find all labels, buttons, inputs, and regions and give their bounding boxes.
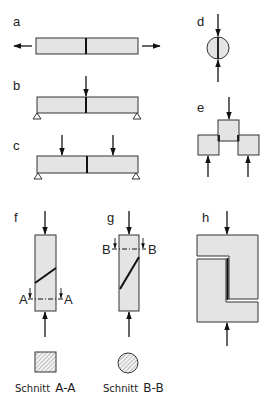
support-triangle-icon <box>133 113 141 119</box>
panel-a: a <box>13 14 160 54</box>
panel-label-b: b <box>13 78 20 93</box>
hatched-square-section <box>35 352 56 372</box>
panel-f: f A A <box>14 210 73 337</box>
caption-mark: A-A <box>55 381 76 395</box>
panel-label-e: e <box>197 100 204 115</box>
panel-label-a: a <box>13 14 21 29</box>
block-left <box>198 135 219 155</box>
scarf-specimen <box>35 235 56 311</box>
beam-specimen <box>37 97 138 113</box>
panel-label-c: c <box>13 138 20 153</box>
panel-label-d: d <box>197 14 204 29</box>
panel-b: b <box>13 76 141 119</box>
section-b-b: Schnitt B-B <box>103 353 164 395</box>
panel-e: e <box>197 97 259 177</box>
panel-label-f: f <box>14 210 18 225</box>
support-triangle-icon <box>33 113 41 119</box>
support-triangle-icon <box>34 173 42 179</box>
section-caption-a: Schnitt A-A <box>15 381 76 395</box>
panel-c: c <box>13 135 140 179</box>
section-caption-b: Schnitt B-B <box>103 381 164 395</box>
section-mark-a-left: A <box>19 292 28 307</box>
section-mark-b-left: B <box>102 242 111 257</box>
panel-h: h <box>197 210 258 346</box>
support-triangle-icon <box>132 173 140 179</box>
block-center <box>218 120 239 141</box>
section-mark-a-right: A <box>64 292 73 307</box>
joint-load-cases-diagram: a b c d e <box>0 0 275 403</box>
section-mark-b-right: B <box>148 242 157 257</box>
block-right <box>238 135 259 155</box>
caption-word: Schnitt <box>103 383 138 394</box>
caption-mark: B-B <box>143 381 163 395</box>
panel-label-g: g <box>107 210 114 225</box>
panel-d: d <box>197 14 229 82</box>
panel-g: g B B <box>102 210 157 337</box>
section-a-a: Schnitt A-A <box>15 352 76 395</box>
caption-word: Schnitt <box>15 383 50 394</box>
panel-label-h: h <box>202 210 209 225</box>
hatched-circle-section <box>118 353 138 373</box>
